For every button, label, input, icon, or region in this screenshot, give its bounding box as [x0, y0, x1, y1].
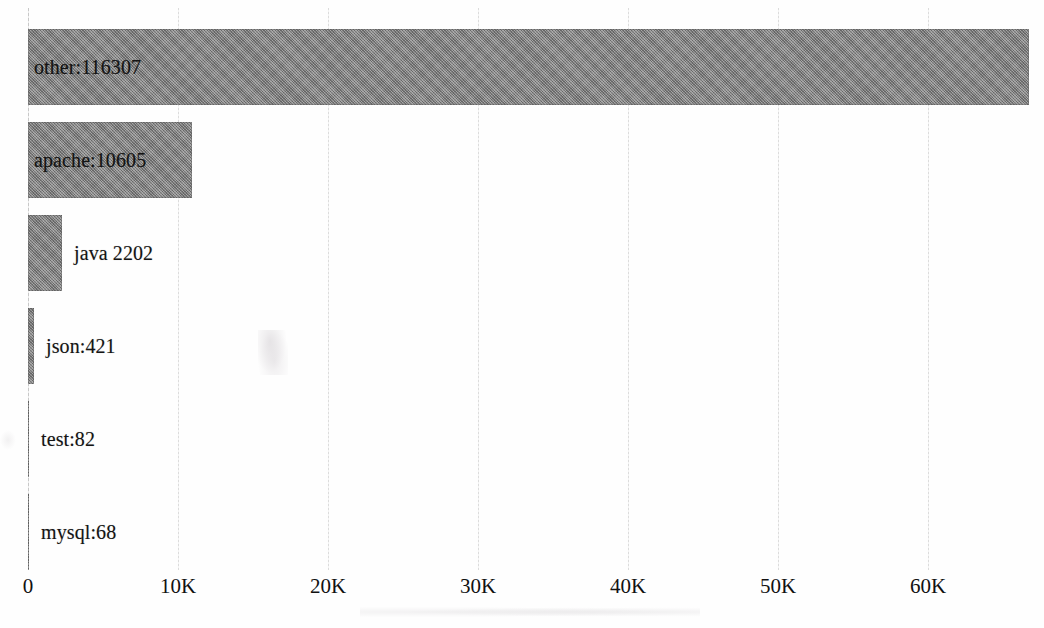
bar-json[interactable]: [28, 308, 34, 384]
bar-mysql[interactable]: [28, 494, 29, 570]
bar-row: mysql:68: [0, 494, 1044, 570]
bar-label-json: json:421: [46, 336, 116, 356]
x-tick-label-0: 0: [23, 576, 34, 597]
plot-area: other:116307apache:10605java 2202json:42…: [0, 0, 1044, 570]
bar-row: test:82: [0, 401, 1044, 477]
bar-label-mysql: mysql:68: [41, 522, 116, 542]
bar-test[interactable]: [28, 401, 29, 477]
x-tick-label-10K: 10K: [160, 576, 196, 597]
x-tick-label-60K: 60K: [910, 576, 946, 597]
bar-other[interactable]: [28, 29, 1029, 105]
x-tick-label-50K: 50K: [760, 576, 796, 597]
bar-row: json:421: [0, 308, 1044, 384]
bar-label-test: test:82: [41, 429, 95, 449]
bar-label-apache: apache:10605: [34, 150, 146, 170]
bar-chart: other:116307apache:10605java 2202json:42…: [0, 0, 1044, 628]
x-tick-label-40K: 40K: [610, 576, 646, 597]
x-tick-label-20K: 20K: [310, 576, 346, 597]
x-tick-label-30K: 30K: [460, 576, 496, 597]
bar-label-java: java 2202: [74, 243, 153, 263]
x-axis: 010K20K30K40K50K60K: [0, 570, 1044, 628]
bar-row: other:116307: [0, 29, 1044, 105]
bar-row: apache:10605: [0, 122, 1044, 198]
bar-java[interactable]: [28, 215, 62, 291]
bar-label-other: other:116307: [34, 57, 141, 77]
bar-row: java 2202: [0, 215, 1044, 291]
